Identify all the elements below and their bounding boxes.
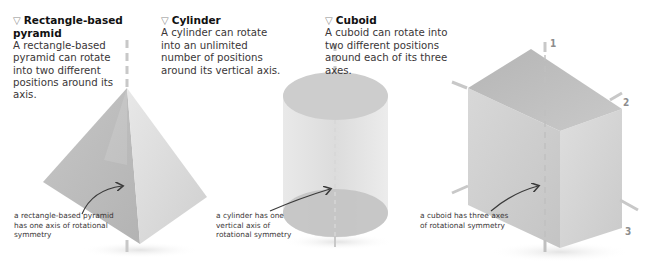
cuboid-axis-label-3: 3 — [625, 226, 631, 237]
triangle-marker-icon: ▽ — [161, 15, 169, 26]
cuboid-axis-2-left — [452, 82, 467, 88]
cuboid-panel: ▽Cuboid A cuboid can rotate into two dif… — [325, 14, 460, 77]
cuboid-callout-label: a cuboid has three axes of rotational sy… — [420, 211, 510, 230]
cuboid-axis-3-left — [452, 186, 468, 193]
triangle-marker-icon: ▽ — [13, 15, 21, 26]
pyramid-heading: ▽Rectangle-based pyramid — [13, 14, 125, 40]
cylinder-description: A cylinder can rotate into an unlimited … — [161, 27, 283, 77]
cuboid-axis-2-right — [610, 93, 622, 100]
pyramid-title: Rectangle-based pyramid — [13, 14, 123, 39]
cylinder-bottom — [283, 189, 388, 237]
triangle-marker-icon: ▽ — [325, 15, 333, 26]
cylinder-top — [283, 72, 388, 120]
cuboid-axis-label-2: 2 — [623, 97, 629, 108]
cylinder-title: Cylinder — [172, 14, 221, 26]
cuboid-axis-3-right — [620, 200, 638, 210]
cuboid-axis-label-1: 1 — [550, 38, 556, 49]
pyramid-description: A rectangle-based pyramid can rotate int… — [13, 40, 125, 102]
pyramid-callout-label: a rectangle-based pyramid has one axis o… — [14, 211, 114, 240]
pyramid-right-face — [127, 88, 207, 244]
cylinder-heading: ▽Cylinder — [161, 14, 283, 27]
cuboid-right-face — [560, 109, 622, 248]
cuboid-heading: ▽Cuboid — [325, 14, 460, 27]
cuboid-title: Cuboid — [336, 14, 377, 26]
cuboid-description: A cuboid can rotate into two different p… — [325, 27, 460, 77]
cylinder-panel: ▽Cylinder A cylinder can rotate into an … — [161, 14, 283, 77]
cylinder-callout-label: a cylinder has one vertical axis of rota… — [216, 211, 296, 240]
pyramid-panel: ▽Rectangle-based pyramid A rectangle-bas… — [13, 14, 125, 102]
